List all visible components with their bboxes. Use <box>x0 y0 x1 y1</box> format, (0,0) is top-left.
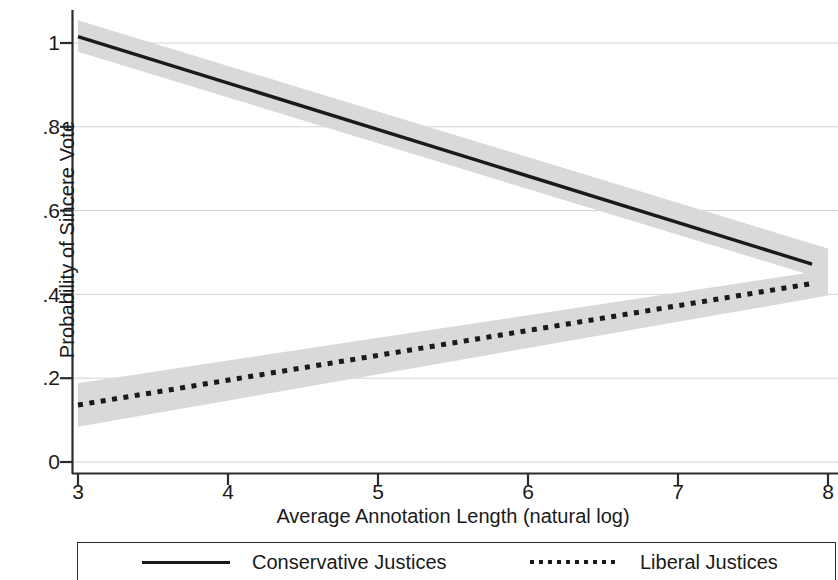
y-tick-label-1: 1 <box>20 32 60 53</box>
x-tick-label-6: 6 <box>508 481 548 502</box>
confidence-band-liberal <box>78 270 828 427</box>
legend-line-sample-solid-icon <box>142 554 230 570</box>
legend-label-liberal: Liberal Justices <box>640 551 778 574</box>
legend-line-sample-dotted-icon <box>530 554 618 570</box>
y-tick-label-08: .8 <box>20 116 60 137</box>
x-tick-label-5: 5 <box>358 481 398 502</box>
chart-legend: Conservative Justices Liberal Justices <box>77 542 836 580</box>
legend-entry-conservative: Conservative Justices <box>142 543 447 580</box>
legend-label-conservative: Conservative Justices <box>252 551 447 574</box>
x-tick-label-4: 4 <box>208 481 248 502</box>
y-tick-label-04: .4 <box>20 284 60 305</box>
y-tick-label-06: .6 <box>20 200 60 221</box>
x-tick-label-8: 8 <box>808 481 838 502</box>
legend-entry-liberal: Liberal Justices <box>530 543 778 580</box>
confidence-band-conservative <box>78 20 828 280</box>
x-tick-marks <box>78 473 828 485</box>
y-axis-title: Probability of Sincere Vote <box>56 30 79 450</box>
y-tick-labels: 1 .8 .6 .4 .2 0 <box>8 0 60 480</box>
x-axis-title: Average Annotation Length (natural log) <box>78 505 828 528</box>
plot-area <box>0 0 838 580</box>
x-tick-label-3: 3 <box>58 481 98 502</box>
series-line-conservative <box>78 37 812 265</box>
chart-figure: 1 .8 .6 .4 .2 0 3 4 5 6 7 8 Probability … <box>0 0 838 580</box>
x-tick-label-7: 7 <box>658 481 698 502</box>
y-tick-label-0: 0 <box>20 451 60 472</box>
y-tick-label-02: .2 <box>20 367 60 388</box>
